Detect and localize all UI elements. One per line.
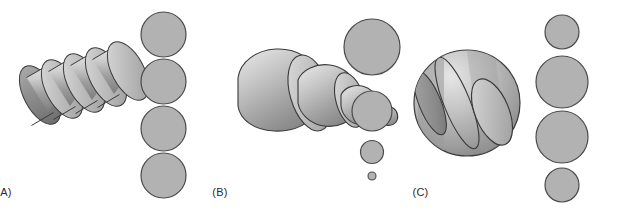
cross-section-circle (536, 56, 588, 108)
cross-section-circle (141, 106, 186, 151)
cross-section-circle (545, 15, 579, 49)
cross-section-circle (368, 172, 376, 180)
panel-b: (B) (200, 0, 400, 211)
panel-c: (C) (400, 0, 617, 211)
sphere-cross-section-column (400, 0, 617, 211)
panel-a: (A) (0, 0, 200, 211)
cross-section-circle (141, 12, 186, 57)
panel-b-label: (B) (120, 186, 320, 198)
figure-canvas: (A) (0, 0, 617, 211)
panel-a-label: (A) (0, 186, 104, 198)
cross-section-circle (344, 19, 400, 75)
cross-section-circle (545, 168, 579, 202)
cylinder-cross-section-column (0, 0, 200, 211)
panel-c-label: (C) (312, 186, 529, 198)
cross-section-circle (352, 91, 392, 131)
cross-section-circle (141, 59, 186, 104)
cross-section-circle (536, 111, 588, 163)
cross-section-circle (361, 141, 384, 164)
cone-cross-section-column (200, 0, 400, 211)
